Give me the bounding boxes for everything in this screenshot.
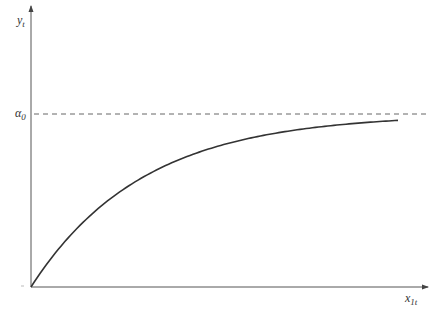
saturation-curve bbox=[31, 120, 398, 287]
asymptote-label: α0 bbox=[15, 106, 26, 122]
chart-canvas: yt α0 x1t bbox=[0, 0, 442, 316]
y-axis-label: yt bbox=[16, 13, 25, 29]
x-axis-label: x1t bbox=[404, 291, 418, 307]
